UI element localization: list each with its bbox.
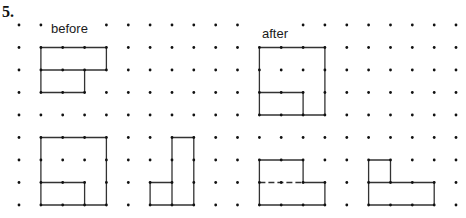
grid-dot <box>18 24 21 27</box>
grid-dot <box>127 136 130 139</box>
grid-dot <box>149 46 152 49</box>
grid-dot <box>214 159 217 162</box>
grid-dot <box>389 69 392 72</box>
grid-dot <box>324 181 327 184</box>
grid-dot <box>149 24 152 27</box>
grid-dot <box>236 181 239 184</box>
grid-dot <box>83 204 86 207</box>
grid-dot <box>105 204 108 207</box>
grid-dot <box>455 136 458 139</box>
grid-dot <box>83 91 86 94</box>
grid-dot <box>83 46 86 49</box>
grid-dot <box>433 24 436 27</box>
grid-dot <box>389 24 392 27</box>
grid-dot <box>171 181 174 184</box>
shape-outline <box>259 48 325 116</box>
grid-dot <box>105 114 108 117</box>
grid-dot <box>258 159 261 162</box>
grid-dot <box>367 69 370 72</box>
grid-dot <box>214 204 217 207</box>
grid-dot <box>411 46 414 49</box>
grid-dot <box>280 114 283 117</box>
grid-dot <box>83 69 86 72</box>
grid-dot <box>302 69 305 72</box>
grid-dot <box>127 159 130 162</box>
grid-dot <box>389 91 392 94</box>
grid-dot <box>61 159 64 162</box>
grid-dot <box>345 69 348 72</box>
grid-dot <box>367 181 370 184</box>
shape-outline <box>259 93 303 116</box>
grid-dot <box>40 159 43 162</box>
grid-dot <box>258 136 261 139</box>
grid-dot <box>61 69 64 72</box>
grid-dot <box>258 91 261 94</box>
grid-dot <box>214 24 217 27</box>
grid-dot <box>40 204 43 207</box>
grid-dot <box>367 136 370 139</box>
grid-dot <box>433 91 436 94</box>
grid-dot <box>302 136 305 139</box>
grid-dot <box>280 204 283 207</box>
grid-dot <box>236 159 239 162</box>
grid-dot <box>192 114 195 117</box>
grid-dot <box>61 46 64 49</box>
grid-dot <box>149 181 152 184</box>
grid-dot <box>40 181 43 184</box>
grid-dot <box>83 114 86 117</box>
grid-dot <box>258 181 261 184</box>
grid-dot <box>411 159 414 162</box>
grid-dot <box>214 91 217 94</box>
grid-dot <box>214 46 217 49</box>
problem-number: 5. <box>2 3 14 21</box>
grid-dot <box>149 159 152 162</box>
grid-dot <box>192 204 195 207</box>
grid-dot <box>280 136 283 139</box>
grid-dot <box>127 181 130 184</box>
grid-dot <box>214 114 217 117</box>
grid-dot <box>367 91 370 94</box>
grid-dot <box>192 159 195 162</box>
grid-dot <box>411 181 414 184</box>
grid-dot <box>18 114 21 117</box>
grid-dot <box>455 69 458 72</box>
grid-dot <box>61 181 64 184</box>
grid-dot <box>455 159 458 162</box>
grid-dot <box>83 159 86 162</box>
grid-dot <box>149 136 152 139</box>
grid-dot <box>433 46 436 49</box>
grid-dot <box>324 91 327 94</box>
grid-dot <box>105 136 108 139</box>
dot-grid-diagram: 5. before after <box>0 0 466 218</box>
grid-dot <box>192 24 195 27</box>
grid-dot <box>105 159 108 162</box>
grid-dot <box>324 114 327 117</box>
grid-dot <box>18 69 21 72</box>
grid-dot <box>324 24 327 27</box>
grid-dot <box>455 204 458 207</box>
option-figure-d <box>369 160 435 205</box>
shape-outline <box>369 160 391 183</box>
grid-dot <box>345 24 348 27</box>
grid-dot <box>455 46 458 49</box>
grid-dot <box>324 46 327 49</box>
shape-outline <box>41 183 85 206</box>
after-label: after <box>262 26 288 41</box>
grid-dot <box>105 46 108 49</box>
grid-dot <box>455 114 458 117</box>
grid-dot <box>192 181 195 184</box>
grid-dot <box>302 24 305 27</box>
grid-dot <box>192 46 195 49</box>
option-figure-b <box>150 138 194 206</box>
grid-dot <box>214 136 217 139</box>
grid-dot <box>18 136 21 139</box>
grid-dot <box>127 114 130 117</box>
grid-dot <box>433 136 436 139</box>
grid-dot <box>258 114 261 117</box>
grid-dot <box>302 91 305 94</box>
before-label: before <box>51 21 88 36</box>
grid-dot <box>324 136 327 139</box>
grid-dot <box>149 91 152 94</box>
grid-dot <box>433 181 436 184</box>
grid-dot <box>258 46 261 49</box>
